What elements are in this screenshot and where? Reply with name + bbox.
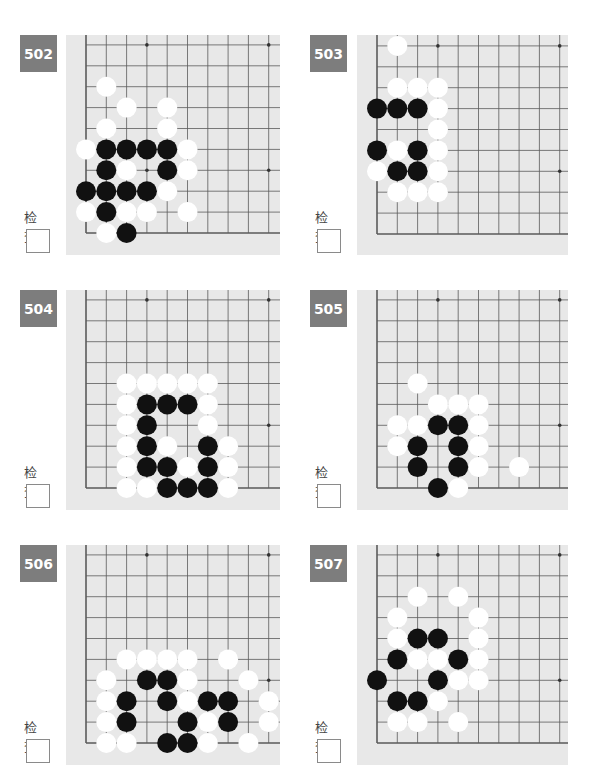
white-stone bbox=[408, 78, 428, 98]
black-stone bbox=[137, 457, 157, 477]
white-stone bbox=[428, 140, 448, 160]
black-stone bbox=[428, 629, 448, 649]
white-stone bbox=[387, 36, 407, 56]
go-board bbox=[357, 545, 568, 765]
white-stone bbox=[178, 160, 198, 180]
star-point bbox=[558, 424, 562, 428]
white-stone bbox=[259, 691, 279, 711]
black-stone bbox=[198, 478, 218, 498]
white-stone bbox=[157, 436, 177, 456]
white-stone bbox=[178, 374, 198, 394]
star-point bbox=[558, 679, 562, 683]
white-stone bbox=[387, 182, 407, 202]
white-stone bbox=[198, 415, 218, 435]
check-checkbox[interactable] bbox=[26, 229, 50, 253]
go-board-grid bbox=[357, 290, 568, 510]
white-stone bbox=[76, 139, 96, 159]
white-stone bbox=[387, 712, 407, 732]
black-stone bbox=[96, 160, 116, 180]
black-stone bbox=[387, 691, 407, 711]
white-stone bbox=[408, 712, 428, 732]
white-stone bbox=[448, 478, 468, 498]
white-stone bbox=[259, 712, 279, 732]
black-stone bbox=[157, 691, 177, 711]
black-stone bbox=[157, 139, 177, 159]
black-stone bbox=[178, 733, 198, 753]
black-stone bbox=[198, 436, 218, 456]
white-stone bbox=[157, 119, 177, 139]
white-stone bbox=[117, 160, 137, 180]
white-stone bbox=[137, 649, 157, 669]
black-stone bbox=[96, 139, 116, 159]
white-stone bbox=[96, 77, 116, 97]
problem-number-badge: 502 bbox=[20, 35, 57, 72]
white-stone bbox=[178, 139, 198, 159]
white-stone bbox=[157, 649, 177, 669]
check-checkbox[interactable] bbox=[26, 739, 50, 763]
black-stone bbox=[137, 436, 157, 456]
white-stone bbox=[469, 649, 489, 669]
problem-number-badge: 506 bbox=[20, 545, 57, 582]
white-stone bbox=[96, 733, 116, 753]
go-board-grid bbox=[66, 545, 280, 765]
black-stone bbox=[387, 649, 407, 669]
check-checkbox[interactable] bbox=[26, 484, 50, 508]
white-stone bbox=[137, 202, 157, 222]
white-stone bbox=[198, 712, 218, 732]
black-stone bbox=[387, 161, 407, 181]
check-checkbox[interactable] bbox=[317, 739, 341, 763]
white-stone bbox=[509, 457, 529, 477]
black-stone bbox=[178, 712, 198, 732]
white-stone bbox=[428, 182, 448, 202]
black-stone bbox=[408, 99, 428, 119]
white-stone bbox=[157, 98, 177, 118]
go-board-grid bbox=[66, 35, 280, 255]
white-stone bbox=[117, 478, 137, 498]
go-board bbox=[357, 35, 568, 255]
check-checkbox[interactable] bbox=[317, 484, 341, 508]
black-stone bbox=[157, 733, 177, 753]
star-point bbox=[145, 553, 149, 557]
white-stone bbox=[428, 649, 448, 669]
black-stone bbox=[448, 415, 468, 435]
star-point bbox=[436, 298, 440, 302]
white-stone bbox=[469, 394, 489, 414]
check-checkbox[interactable] bbox=[317, 229, 341, 253]
white-stone bbox=[218, 649, 238, 669]
white-stone bbox=[387, 436, 407, 456]
black-stone bbox=[428, 415, 448, 435]
white-stone bbox=[387, 629, 407, 649]
black-stone bbox=[96, 202, 116, 222]
problem-number-badge: 507 bbox=[310, 545, 347, 582]
white-stone bbox=[218, 457, 238, 477]
white-stone bbox=[117, 98, 137, 118]
white-stone bbox=[408, 587, 428, 607]
white-stone bbox=[198, 733, 218, 753]
black-stone bbox=[408, 629, 428, 649]
black-stone bbox=[137, 181, 157, 201]
white-stone bbox=[137, 478, 157, 498]
black-stone bbox=[178, 394, 198, 414]
white-stone bbox=[96, 119, 116, 139]
black-stone bbox=[408, 436, 428, 456]
go-board-grid bbox=[66, 290, 280, 510]
black-stone bbox=[428, 478, 448, 498]
black-stone bbox=[157, 457, 177, 477]
go-board bbox=[66, 290, 280, 510]
star-point bbox=[558, 170, 562, 174]
white-stone bbox=[469, 457, 489, 477]
white-stone bbox=[428, 99, 448, 119]
black-stone bbox=[448, 649, 468, 669]
black-stone bbox=[117, 691, 137, 711]
white-stone bbox=[387, 140, 407, 160]
white-stone bbox=[238, 670, 258, 690]
white-stone bbox=[469, 436, 489, 456]
star-point bbox=[436, 44, 440, 48]
go-board bbox=[357, 290, 568, 510]
black-stone bbox=[137, 139, 157, 159]
white-stone bbox=[178, 691, 198, 711]
white-stone bbox=[428, 78, 448, 98]
black-stone bbox=[198, 457, 218, 477]
white-stone bbox=[218, 436, 238, 456]
problem-number-badge: 505 bbox=[310, 290, 347, 327]
